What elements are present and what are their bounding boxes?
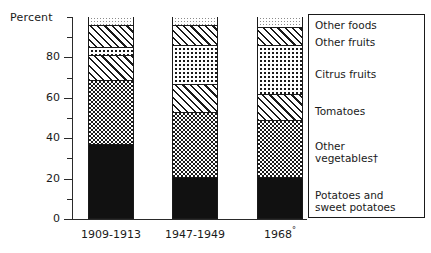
bar-segment — [173, 178, 217, 218]
legend-item-other-vegetables: Other vegetables† — [315, 140, 378, 164]
segment-divider — [89, 80, 133, 81]
y-tick-90 — [67, 37, 73, 38]
bar-segment — [173, 85, 217, 113]
segment-divider — [89, 47, 133, 48]
segment-divider — [173, 112, 217, 113]
y-tick-40 — [64, 138, 73, 139]
segment-divider — [89, 55, 133, 56]
y-tick-label-80: 80 — [20, 50, 60, 63]
segment-divider — [258, 27, 302, 28]
y-tick-100 — [67, 17, 73, 18]
bar-segment — [258, 121, 302, 178]
x-axis-label-3-mark: ° — [292, 226, 296, 235]
y-tick-80 — [64, 57, 73, 58]
y-axis-title: Percent — [10, 11, 53, 24]
bar-segment — [173, 26, 217, 46]
bar-segment — [173, 113, 217, 178]
legend-item-other-fruits: Other fruits — [315, 36, 375, 48]
y-tick-0 — [64, 219, 73, 220]
segment-divider — [89, 25, 133, 26]
x-axis-label-2-text: 1947-1949 — [165, 228, 225, 241]
bar-segment — [89, 145, 133, 218]
legend-item-tomatoes: Tomatoes — [315, 105, 365, 117]
bar-segment — [173, 46, 217, 84]
segment-divider — [258, 120, 302, 121]
y-tick-20 — [64, 179, 73, 180]
bar-segment — [258, 28, 302, 46]
segment-divider — [173, 25, 217, 26]
bar-segment — [258, 46, 302, 94]
stacked-bar-chart: Percent 1909-1913 1947-1949 1968° — [0, 0, 431, 253]
y-tick-30 — [67, 158, 73, 159]
y-tick-label-40: 40 — [20, 131, 60, 144]
segment-divider — [258, 94, 302, 95]
legend-item-potatoes: Potatoes and sweet potatoes — [315, 189, 396, 213]
y-tick-label-0: 0 — [20, 212, 60, 225]
segment-divider — [173, 45, 217, 46]
segment-divider — [258, 177, 302, 178]
x-axis-label-3-text: 1968 — [264, 228, 292, 241]
y-tick-70 — [67, 78, 73, 79]
segment-divider — [173, 84, 217, 85]
bar-segment — [258, 178, 302, 218]
bar-1968 — [257, 17, 303, 219]
bar-1909-1913 — [88, 17, 134, 219]
bar-1947-1949 — [172, 17, 218, 219]
segment-divider — [173, 177, 217, 178]
y-tick-60 — [64, 98, 73, 99]
y-tick-label-20: 20 — [20, 172, 60, 185]
bar-segment — [89, 81, 133, 146]
y-tick-50 — [67, 118, 73, 119]
legend-item-citrus-fruits: Citrus fruits — [315, 68, 376, 80]
y-tick-label-60: 60 — [20, 91, 60, 104]
x-axis-label-3: 1968° — [225, 226, 335, 241]
x-axis-line — [72, 219, 307, 220]
segment-divider — [89, 144, 133, 145]
bar-segment — [89, 56, 133, 80]
bar-segment — [89, 26, 133, 48]
segment-divider — [258, 45, 302, 46]
legend-item-other-foods: Other foods — [315, 19, 377, 31]
y-tick-10 — [67, 199, 73, 200]
x-axis-label-1-text: 1909-1913 — [81, 228, 141, 241]
bar-segment — [258, 95, 302, 121]
